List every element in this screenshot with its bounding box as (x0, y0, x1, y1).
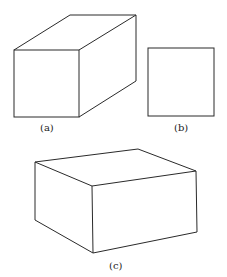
figure-b-label: (b) (174, 122, 188, 133)
figure-a-depth-edges (14, 15, 136, 117)
figure-c-label: (c) (109, 260, 122, 271)
figure-a-box (14, 15, 136, 117)
figure-c-outline (35, 162, 197, 253)
figure-c-box (35, 149, 197, 253)
figure-b-face (148, 48, 214, 116)
figure-c-top-face (35, 149, 196, 186)
figure-canvas (0, 0, 227, 277)
figure-a-front-face (14, 50, 79, 117)
figure-b-square (148, 48, 214, 116)
figure-a-label: (a) (40, 122, 54, 133)
figure-c-front-edge (92, 186, 93, 253)
figure-a-top-right-edge (79, 15, 136, 50)
